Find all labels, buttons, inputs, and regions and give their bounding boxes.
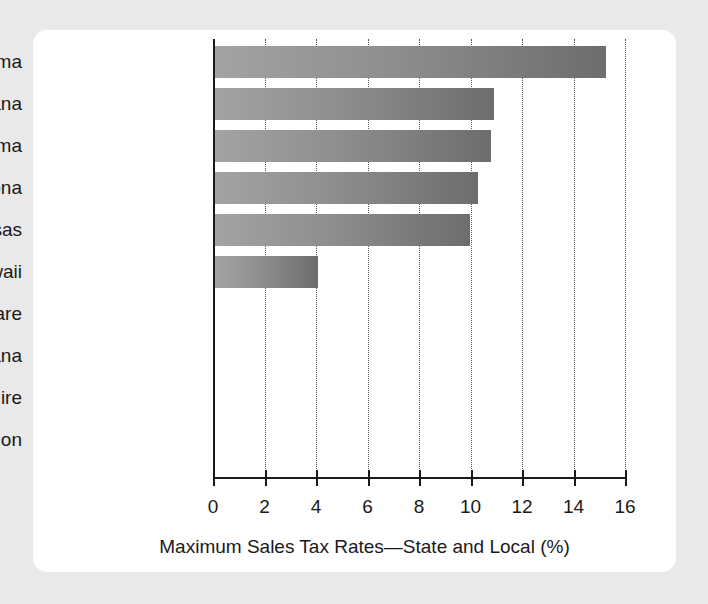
tick-8	[419, 470, 421, 486]
x-tick-label-12: 12	[502, 496, 542, 518]
bar-row: Louisiana	[33, 83, 676, 125]
category-label-hawaii: Hawaii	[0, 251, 22, 293]
tick-4	[316, 470, 318, 486]
x-tick-label-10: 10	[451, 496, 491, 518]
category-label-louisiana: Louisiana	[0, 83, 22, 125]
bar-row: Arkansas	[33, 209, 676, 251]
tick-12	[522, 470, 524, 486]
bar-row: Montana	[33, 335, 676, 377]
chart-card: AlabamaLouisianaOklahomaArizonaArkansasH…	[33, 30, 676, 572]
bar-row: Oregon	[33, 419, 676, 461]
bar-row: Delaware	[33, 293, 676, 335]
bar-row: Arizona	[33, 167, 676, 209]
x-axis-title: Maximum Sales Tax Rates—State and Local …	[33, 536, 676, 558]
x-tick-label-14: 14	[554, 496, 594, 518]
category-label-alabama: Alabama	[0, 41, 22, 83]
bar-oklahoma	[215, 130, 491, 162]
bar-arkansas	[215, 214, 470, 246]
tick-10	[471, 470, 473, 486]
bar-row: New Hampshire	[33, 377, 676, 419]
tick-0	[213, 470, 215, 486]
category-label-delaware: Delaware	[0, 293, 22, 335]
tick-2	[265, 470, 267, 486]
tick-16	[625, 470, 627, 486]
bar-alabama	[215, 46, 606, 78]
category-label-oregon: Oregon	[0, 419, 22, 461]
category-label-oklahoma: Oklahoma	[0, 125, 22, 167]
figure-root: AlabamaLouisianaOklahomaArizonaArkansasH…	[0, 0, 708, 604]
x-tick-label-4: 4	[296, 496, 336, 518]
bar-louisiana	[215, 88, 494, 120]
tick-14	[574, 470, 576, 486]
category-label-arkansas: Arkansas	[0, 209, 22, 251]
bar-row: Hawaii	[33, 251, 676, 293]
category-label-arizona: Arizona	[0, 167, 22, 209]
category-label-new-hampshire: New Hampshire	[0, 377, 22, 419]
x-tick-label-0: 0	[193, 496, 233, 518]
category-label-montana: Montana	[0, 335, 22, 377]
x-tick-label-8: 8	[399, 496, 439, 518]
bar-arizona	[215, 172, 478, 204]
x-tick-label-2: 2	[245, 496, 285, 518]
tick-6	[368, 470, 370, 486]
bar-row: Oklahoma	[33, 125, 676, 167]
x-tick-label-16: 16	[605, 496, 645, 518]
bar-row: Alabama	[33, 41, 676, 83]
x-tick-label-6: 6	[348, 496, 388, 518]
bar-hawaii	[215, 256, 318, 288]
